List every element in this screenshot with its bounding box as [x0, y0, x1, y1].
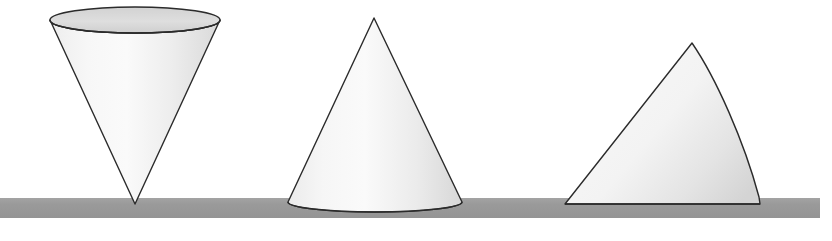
- cone-inverted-body: [50, 20, 220, 204]
- cone-equilibrium-figure: [0, 0, 832, 241]
- cone-tilted-on-slant-side: [565, 43, 760, 204]
- cone-upright-base-down: [288, 18, 462, 212]
- figure-caption: [0, 224, 832, 241]
- figure-root: [0, 0, 832, 241]
- cone-tilted-body: [565, 43, 760, 204]
- cone-inverted-apex-down: [50, 7, 220, 204]
- cone-upright-body: [288, 18, 462, 212]
